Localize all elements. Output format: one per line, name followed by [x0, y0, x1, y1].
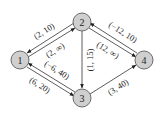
- edge-label-2-4: (12, ∞): [95, 39, 121, 61]
- node-3: 3: [73, 89, 91, 107]
- edge-label-2-3: (1, 15): [85, 49, 95, 72]
- edge-label-3-4: (3, 40): [106, 77, 131, 98]
- node-1-label: 1: [18, 55, 23, 66]
- node-4-label: 4: [142, 55, 147, 66]
- node-4: 4: [135, 51, 153, 69]
- edge-label-1-2: (2, ∞): [44, 40, 67, 59]
- node-2-label: 2: [80, 17, 85, 28]
- edge-label-3-1: (−6, 40): [43, 58, 72, 81]
- edge-2-to-3: (1, 15): [82, 31, 95, 88]
- edge-label-4-2: (−12, 10): [107, 19, 139, 44]
- node-1: 1: [11, 51, 29, 69]
- node-3-label: 3: [80, 93, 85, 104]
- graph-diagram: (2, 10) (2, ∞) (−12, 10) (12, ∞) (1, 15)…: [0, 0, 161, 120]
- node-2: 2: [73, 13, 91, 31]
- edge-label-2-1: (2, 10): [32, 21, 57, 42]
- edge-label-1-3: (6, 20): [28, 75, 53, 96]
- edge-3-to-4: (3, 40): [90, 65, 136, 97]
